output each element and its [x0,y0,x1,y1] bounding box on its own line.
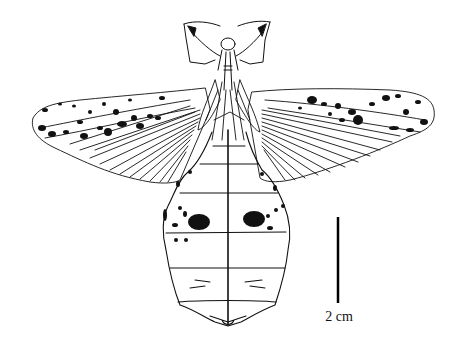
thorax-tegmina [198,80,260,140]
specimen-illustration [0,0,459,349]
head-pronotum [184,21,270,90]
right-wing [248,89,434,182]
scale-bar-label: 2 cm [322,309,356,325]
left-wing [32,88,210,183]
